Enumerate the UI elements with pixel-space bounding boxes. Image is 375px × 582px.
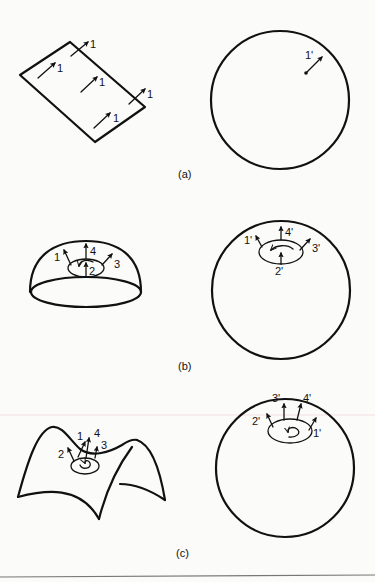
closed-loop — [71, 458, 99, 474]
vector-label: 3 — [114, 258, 120, 270]
vector-label: 1 — [90, 38, 96, 50]
vector-label: 4' — [303, 392, 311, 404]
image-vector — [256, 236, 262, 247]
saddle-front-fold — [99, 447, 132, 519]
panel-c: 2 1 4 3 2' 3' 4' 1' (c) — [18, 392, 354, 559]
normal-vector — [102, 254, 112, 265]
image-vector — [297, 404, 301, 420]
vector-label: 1 — [57, 62, 63, 74]
loop-direction-arrow — [288, 428, 299, 438]
image-vector — [300, 239, 310, 250]
plane-outline — [20, 42, 145, 142]
vector-label: 1 — [77, 430, 83, 442]
plane-surface: 1 1 1 1 1 — [20, 38, 153, 142]
vector-label: 4' — [285, 226, 293, 238]
vector-label: 2' — [275, 265, 283, 277]
base-ellipse — [31, 277, 141, 307]
caption-c: (c) — [176, 547, 189, 559]
gauss-map-figure: 1 1 1 1 1 1' (a) 1 4 — [0, 0, 375, 582]
normal-vector — [64, 250, 71, 265]
vector-label: 4 — [94, 427, 100, 439]
unit-sphere — [211, 31, 349, 169]
gauss-sphere-c: 2' 3' 4' 1' — [216, 392, 354, 537]
normal-vector — [68, 448, 74, 461]
saddle-right-lower-edge — [120, 484, 165, 500]
vector-label: 3' — [312, 242, 320, 254]
vector-label: 2 — [89, 265, 95, 277]
vector-label: 1' — [313, 427, 321, 439]
loop-direction-arrow — [80, 461, 90, 469]
normal-vector — [38, 63, 55, 78]
saddle-front-left-edge — [18, 492, 99, 519]
normal-vector — [94, 113, 110, 128]
image-loop — [268, 419, 312, 443]
gauss-sphere-a: 1' — [211, 31, 349, 169]
hemisphere-surface: 1 4 2 3 — [30, 241, 141, 307]
vector-label: 1 — [54, 251, 60, 263]
normal-vector — [86, 438, 89, 458]
vector-label: 1 — [113, 112, 119, 124]
vector-label: 3' — [272, 392, 280, 404]
vector-label: 3 — [101, 439, 107, 451]
vector-label: 2' — [252, 415, 260, 427]
panel-a: 1 1 1 1 1 1' (a) — [20, 31, 349, 180]
vector-label: 1' — [244, 234, 252, 246]
saddle-surface: 2 1 4 3 — [18, 427, 165, 519]
vector-label: 1 — [99, 76, 105, 88]
unit-sphere — [212, 221, 350, 359]
panel-b: 1 4 2 3 1' 4' 3' 2' (b) — [30, 221, 350, 372]
caption-a: (a) — [178, 168, 191, 180]
gauss-sphere-b: 1' 4' 3' 2' — [212, 221, 350, 359]
normal-vector — [81, 77, 97, 92]
vector-label: 4 — [90, 245, 96, 257]
vector-label: 2 — [58, 448, 64, 460]
caption-b: (b) — [178, 360, 191, 372]
loop-direction-arrow — [271, 246, 293, 250]
bottom-rule — [0, 575, 375, 577]
vector-label: 1' — [305, 49, 313, 61]
vector-label: 1 — [147, 88, 153, 100]
